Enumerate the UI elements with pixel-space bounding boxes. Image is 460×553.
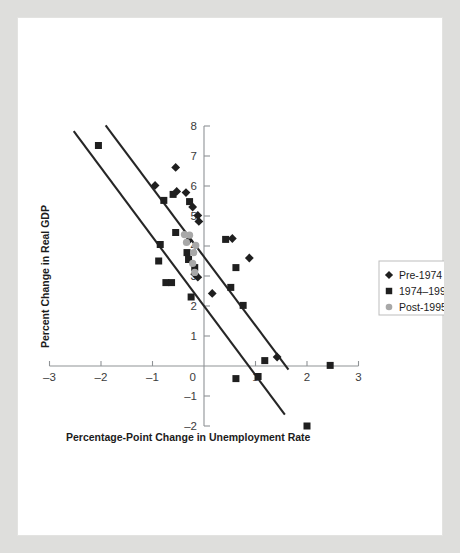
legend-label: Post-1995 bbox=[399, 301, 444, 313]
y-tick-label: 8 bbox=[191, 120, 197, 132]
legend-marker-circle bbox=[386, 304, 393, 311]
data-point-square bbox=[240, 302, 247, 309]
y-tick-label: 1 bbox=[191, 330, 197, 342]
plot-svg: –3–2–1123–2–1012345678 Percent Change in… bbox=[18, 18, 444, 537]
data-point-square bbox=[95, 142, 102, 149]
y-tick-label: 6 bbox=[191, 180, 197, 192]
data-point-circle bbox=[189, 260, 196, 267]
data-point-circle bbox=[183, 239, 190, 246]
data-point-diamond bbox=[228, 234, 237, 243]
data-point-circle bbox=[190, 249, 197, 256]
figure-frame: –3–2–1123–2–1012345678 Percent Change in… bbox=[17, 17, 443, 536]
data-point-circle bbox=[192, 242, 199, 249]
data-point-diamond bbox=[245, 254, 254, 263]
legend: Pre-19741974–1995Post-1995 bbox=[379, 261, 444, 315]
x-tick-label: 3 bbox=[355, 371, 361, 383]
data-points-group bbox=[95, 142, 334, 430]
data-point-circle bbox=[186, 232, 193, 239]
x-tick-label: 2 bbox=[304, 371, 310, 383]
x-axis-title: Percentage-Point Change in Unemployment … bbox=[66, 431, 311, 443]
data-point-square bbox=[261, 357, 268, 364]
data-point-square bbox=[157, 241, 164, 248]
data-point-diamond bbox=[182, 188, 191, 197]
data-point-square bbox=[188, 294, 195, 301]
y-tick-label: –1 bbox=[184, 390, 197, 402]
data-point-square bbox=[186, 198, 193, 205]
data-point-circle bbox=[191, 269, 198, 276]
data-point-square bbox=[255, 373, 262, 380]
data-point-square bbox=[232, 264, 239, 271]
y-tick-label: 7 bbox=[191, 150, 197, 162]
data-point-square bbox=[232, 375, 239, 382]
data-point-diamond bbox=[208, 289, 217, 298]
legend-marker-square bbox=[386, 288, 392, 294]
x-tick-label: –1 bbox=[146, 371, 159, 383]
data-point-square bbox=[168, 279, 175, 286]
data-point-square bbox=[172, 229, 179, 236]
legend-label: Pre-1974 bbox=[399, 269, 442, 281]
data-point-square bbox=[184, 249, 191, 256]
data-point-square bbox=[170, 191, 177, 198]
data-point-diamond bbox=[171, 163, 180, 172]
legend-label: 1974–1995 bbox=[399, 285, 444, 297]
data-point-square bbox=[222, 236, 229, 243]
data-point-square bbox=[160, 197, 167, 204]
data-point-square bbox=[304, 423, 311, 430]
y-axis-title: Percent Change in Real GDP bbox=[39, 205, 51, 348]
data-point-square bbox=[327, 362, 334, 369]
x-tick-label: –2 bbox=[95, 371, 108, 383]
x-tick-label: –3 bbox=[43, 371, 56, 383]
scatter-plot: –3–2–1123–2–1012345678 Percent Change in… bbox=[18, 18, 444, 537]
axes-group: –3–2–1123–2–1012345678 bbox=[43, 120, 362, 432]
y-tick-label: 0 bbox=[190, 371, 196, 383]
data-point-square bbox=[227, 284, 234, 291]
y-tick-label: 2 bbox=[191, 300, 197, 312]
data-point-square bbox=[155, 258, 162, 265]
